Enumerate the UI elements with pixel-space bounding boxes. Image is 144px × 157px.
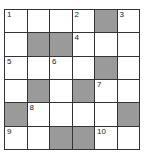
block-cell (95, 57, 117, 79)
letter-cell[interactable]: 8 (28, 103, 50, 125)
letter-cell[interactable]: 6 (50, 57, 72, 79)
letter-cell[interactable] (50, 103, 72, 125)
block-cell (95, 10, 117, 32)
letter-cell[interactable]: 3 (118, 10, 140, 32)
block-cell (50, 33, 72, 55)
clue-number: 8 (30, 104, 34, 112)
block-cell (118, 103, 140, 125)
letter-cell[interactable]: 10 (95, 127, 117, 149)
block-cell (50, 127, 72, 149)
letter-cell[interactable] (118, 57, 140, 79)
letter-cell[interactable] (95, 33, 117, 55)
crossword-grid: 12345678910 (4, 9, 140, 150)
block-cell (73, 127, 95, 149)
letter-cell[interactable]: 9 (5, 127, 27, 149)
letter-cell[interactable] (5, 33, 27, 55)
letter-cell[interactable] (118, 127, 140, 149)
letter-cell[interactable] (73, 103, 95, 125)
letter-cell[interactable] (5, 80, 27, 102)
clue-number: 5 (7, 58, 11, 66)
letter-cell[interactable] (28, 10, 50, 32)
letter-cell[interactable]: 1 (5, 10, 27, 32)
clue-number: 6 (52, 58, 56, 66)
letter-cell[interactable] (28, 57, 50, 79)
block-cell (28, 33, 50, 55)
clue-number: 4 (75, 34, 79, 42)
block-cell (73, 80, 95, 102)
letter-cell[interactable] (28, 127, 50, 149)
clue-number: 1 (7, 11, 11, 19)
letter-cell[interactable]: 2 (73, 10, 95, 32)
letter-cell[interactable] (95, 103, 117, 125)
letter-cell[interactable] (118, 80, 140, 102)
clue-number: 10 (97, 128, 106, 136)
clue-number: 9 (7, 128, 11, 136)
letter-cell[interactable]: 5 (5, 57, 27, 79)
letter-cell[interactable] (50, 80, 72, 102)
letter-cell[interactable] (50, 10, 72, 32)
letter-cell[interactable]: 4 (73, 33, 95, 55)
block-cell (5, 103, 27, 125)
letter-cell[interactable]: 7 (95, 80, 117, 102)
block-cell (28, 80, 50, 102)
letter-cell[interactable] (73, 57, 95, 79)
clue-number: 2 (75, 11, 79, 19)
clue-number: 7 (97, 81, 101, 89)
clue-number: 3 (120, 11, 124, 19)
letter-cell[interactable] (118, 33, 140, 55)
